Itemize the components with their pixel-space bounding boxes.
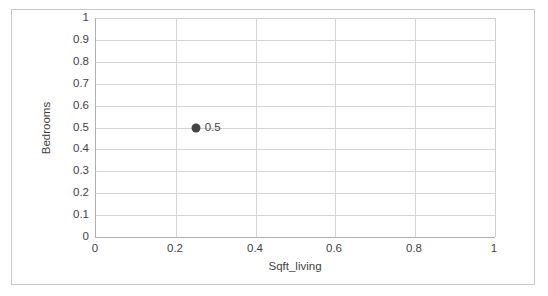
- y-axis-tick-label: 0.5: [19, 122, 89, 134]
- y-axis-tick-label: 1: [19, 12, 89, 24]
- gridline-horizontal: [96, 215, 495, 216]
- gridline-horizontal: [96, 106, 495, 107]
- y-axis-tick-label: 0.2: [19, 187, 89, 199]
- gridline-vertical: [415, 18, 416, 237]
- y-axis-tick-label: 0.8: [19, 56, 89, 68]
- gridline-vertical: [176, 18, 177, 237]
- x-axis-tick-labels: 00.20.40.60.81: [95, 242, 495, 258]
- gridline-horizontal: [96, 40, 495, 41]
- y-axis-tick-labels: 10.90.80.70.60.50.40.30.20.10: [12, 18, 89, 238]
- gridline-horizontal: [96, 18, 495, 19]
- gridline-horizontal: [96, 171, 495, 172]
- data-point-marker[interactable]: [191, 123, 200, 132]
- x-axis-tick-label: 1: [491, 242, 497, 254]
- gridline-horizontal: [96, 128, 495, 129]
- plot-area: 0.5: [95, 18, 495, 238]
- gridline-horizontal: [96, 193, 495, 194]
- x-axis-tick-label: 0.6: [326, 242, 342, 254]
- gridline-vertical: [495, 18, 496, 237]
- gridline-vertical: [256, 18, 257, 237]
- gridline-horizontal: [96, 149, 495, 150]
- y-axis-tick-label: 0.6: [19, 100, 89, 112]
- y-axis-tick-label: 0: [19, 231, 89, 243]
- y-axis-tick-label: 0.1: [19, 209, 89, 221]
- gridline-vertical: [335, 18, 336, 237]
- x-axis-tick-label: 0.8: [406, 242, 422, 254]
- chart-frame: Bedrooms 10.90.80.70.60.50.40.30.20.10 0…: [11, 9, 535, 285]
- data-point-label: 0.5: [205, 122, 221, 134]
- y-axis-tick-label: 0.3: [19, 165, 89, 177]
- y-axis-tick-label: 0.9: [19, 34, 89, 46]
- gridline-horizontal: [96, 84, 495, 85]
- y-axis-tick-label: 0.4: [19, 143, 89, 155]
- x-axis-tick-label: 0: [92, 242, 98, 254]
- x-axis-tick-label: 0.4: [247, 242, 263, 254]
- gridline-horizontal: [96, 62, 495, 63]
- x-axis-tick-label: 0.2: [167, 242, 183, 254]
- y-axis-tick-label: 0.7: [19, 78, 89, 90]
- x-axis-title: Sqft_living: [95, 260, 495, 272]
